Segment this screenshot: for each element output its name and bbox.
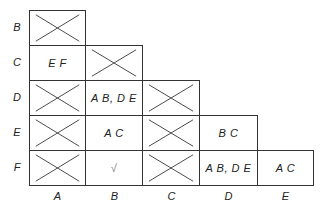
cell-f-c [142, 150, 200, 186]
row-label-d: D [10, 91, 24, 103]
cell-b-a [29, 10, 86, 46]
cell-f-b: √ [85, 150, 143, 186]
col-label-d: D [200, 190, 257, 202]
cross-icon [30, 151, 85, 185]
col-label-a: A [29, 190, 86, 202]
cell-text: A C [104, 127, 123, 139]
row-label-c: C [10, 56, 24, 68]
cross-icon [143, 116, 199, 150]
cell-e-a [29, 115, 86, 151]
cross-icon [30, 116, 85, 150]
checkmark-icon: √ [111, 162, 118, 174]
cell-e-d: B C [199, 115, 258, 151]
cell-d-c [142, 80, 200, 116]
col-label-c: C [143, 190, 200, 202]
cell-f-e: A C [257, 150, 314, 186]
col-label-b: B [86, 190, 143, 202]
cell-d-a [29, 80, 86, 116]
cell-d-b: A B, D E [85, 80, 143, 116]
cell-c-b [85, 45, 143, 81]
cell-text: A B, D E [206, 162, 252, 174]
row-label-f: F [10, 161, 24, 173]
cross-icon [143, 151, 199, 185]
cell-text: B C [219, 127, 239, 139]
cell-f-a [29, 150, 86, 186]
col-label-e: E [257, 190, 314, 202]
cell-text: A C [276, 162, 295, 174]
cross-icon [30, 11, 85, 45]
cell-text: A B, D E [91, 92, 137, 104]
cross-icon [143, 81, 199, 115]
cell-e-b: A C [85, 115, 143, 151]
cell-text: E F [48, 57, 67, 69]
row-label-e: E [10, 126, 24, 138]
cell-e-c [142, 115, 200, 151]
cross-icon [30, 81, 85, 115]
cell-c-a: E F [29, 45, 86, 81]
cell-f-d: A B, D E [199, 150, 258, 186]
cross-icon [86, 46, 142, 80]
row-label-b: B [10, 21, 24, 33]
